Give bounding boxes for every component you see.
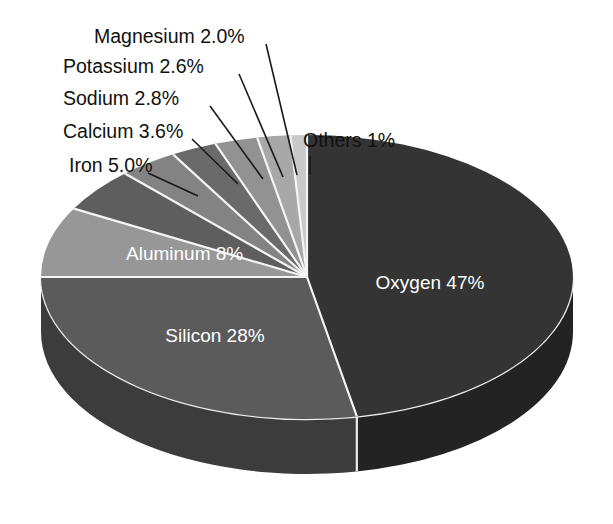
slice-label-magnesium: Magnesium 2.0% — [94, 25, 245, 47]
slice-label-sodium: Sodium 2.8% — [63, 87, 179, 109]
slice-label-others: Others 1% — [303, 129, 395, 151]
pie-chart-canvas: Oxygen 47% Silicon 28% Aluminum 8% Iron … — [0, 0, 613, 524]
slice-label-oxygen: Oxygen 47% — [376, 272, 485, 293]
slice-label-aluminum: Aluminum 8% — [126, 243, 243, 264]
slice-label-potassium: Potassium 2.6% — [63, 55, 204, 77]
slice-label-iron: Iron 5.0% — [69, 154, 152, 176]
pie-chart-figure: Oxygen 47% Silicon 28% Aluminum 8% Iron … — [0, 0, 613, 524]
slice-label-calcium: Calcium 3.6% — [63, 120, 183, 142]
slice-label-silicon: Silicon 28% — [165, 325, 264, 346]
